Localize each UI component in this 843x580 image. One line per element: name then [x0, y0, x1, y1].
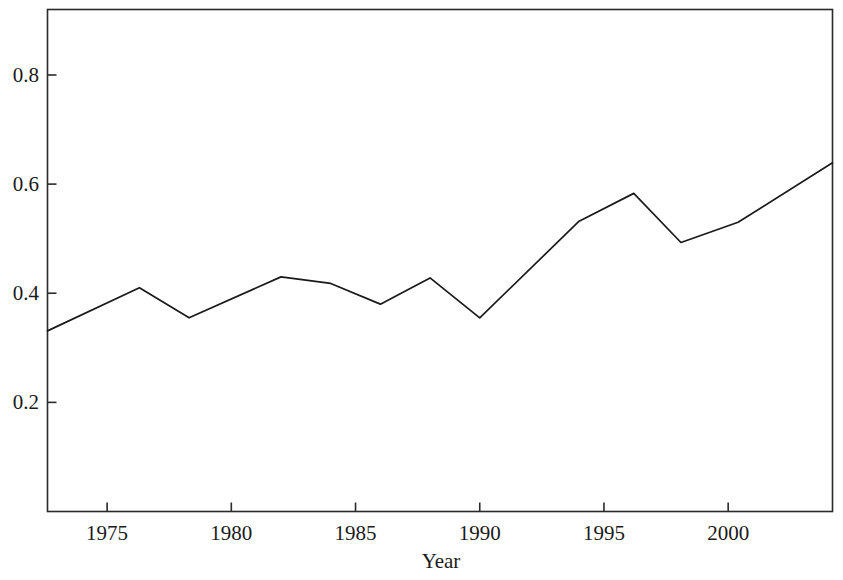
x-tick-label: 1990: [459, 523, 501, 544]
y-tick-label: 0.8: [0, 64, 39, 85]
x-tick-label: 1995: [583, 523, 625, 544]
x-tick-label: 1985: [335, 523, 377, 544]
x-tick-label: 1980: [210, 523, 252, 544]
plot-area: [0, 0, 843, 580]
y-tick-label: 0.2: [0, 392, 39, 413]
y-tick-label: 0.6: [0, 174, 39, 195]
chart-figure: 0.20.40.60.8 197519801985199019952000 Ye…: [0, 0, 843, 580]
x-axis-title: Year: [422, 551, 461, 572]
x-tick-label: 1975: [86, 523, 128, 544]
y-tick-label: 0.4: [0, 283, 39, 304]
plot-background: [0, 0, 843, 580]
x-tick-label: 2000: [707, 523, 749, 544]
